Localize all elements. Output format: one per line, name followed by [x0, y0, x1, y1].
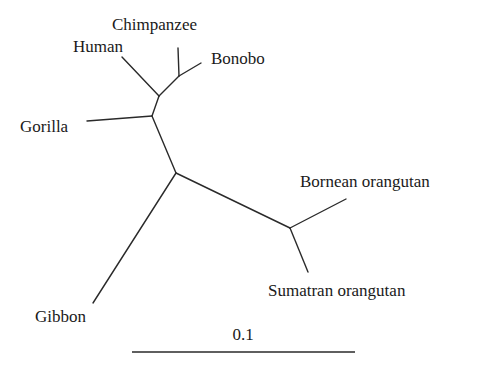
bornean-orangutan-branch	[290, 199, 346, 228]
sumatran-orangutan-branch	[290, 228, 308, 272]
taxon-label-gorilla: Gorilla	[20, 117, 69, 136]
bonobo-branch	[179, 63, 201, 76]
phylogenetic-tree: Chimpanzee Human Bonobo Gorilla Bornean …	[0, 0, 479, 366]
taxon-label-human: Human	[73, 37, 124, 56]
human-pan-internal-branch	[152, 96, 159, 116]
african-ape-internal-branch	[152, 116, 176, 173]
taxon-label-sumatran-orangutan: Sumatran orangutan	[268, 281, 406, 300]
taxon-labels: Chimpanzee Human Bonobo Gorilla Bornean …	[20, 15, 430, 326]
chimpanzee-branch	[178, 48, 179, 76]
taxon-label-bornean-orangutan: Bornean orangutan	[300, 172, 430, 191]
pan-internal-branch	[159, 76, 179, 96]
human-branch	[122, 57, 159, 96]
taxon-label-bonobo: Bonobo	[211, 49, 265, 68]
scale-bar-group: 0.1	[132, 325, 355, 352]
orangutan-internal-branch	[176, 173, 290, 228]
gorilla-branch	[87, 116, 152, 121]
gibbon-branch	[93, 173, 176, 303]
taxon-label-gibbon: Gibbon	[35, 307, 87, 326]
taxon-label-chimpanzee: Chimpanzee	[112, 15, 197, 34]
scale-bar-label: 0.1	[232, 325, 253, 344]
